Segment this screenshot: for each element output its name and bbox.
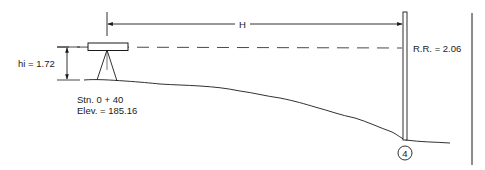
point-marker: 4: [398, 146, 412, 160]
h-label: H: [239, 19, 246, 30]
horizontal-distance-dimension: H: [107, 12, 402, 36]
leveling-diagram: H hi = 1.72 R.R. = 2.06 4 Stn. 0 + 40 El…: [0, 0, 485, 170]
point-number: 4: [402, 148, 407, 159]
leveling-rod: [403, 12, 407, 140]
tripod-leg-left: [97, 50, 107, 80]
telescope: [88, 43, 128, 51]
tripod-leg-right: [107, 50, 117, 81]
hi-label: hi = 1.72: [18, 58, 55, 69]
station-label: Stn. 0 + 40: [77, 94, 123, 105]
level-instrument: [88, 43, 128, 81]
instrument-height-dimension: hi = 1.72: [18, 47, 80, 80]
ground-profile: [84, 80, 450, 143]
elevation-label: Elev. = 185.16: [77, 105, 137, 116]
rod-reading-label: R.R. = 2.06: [413, 43, 461, 54]
